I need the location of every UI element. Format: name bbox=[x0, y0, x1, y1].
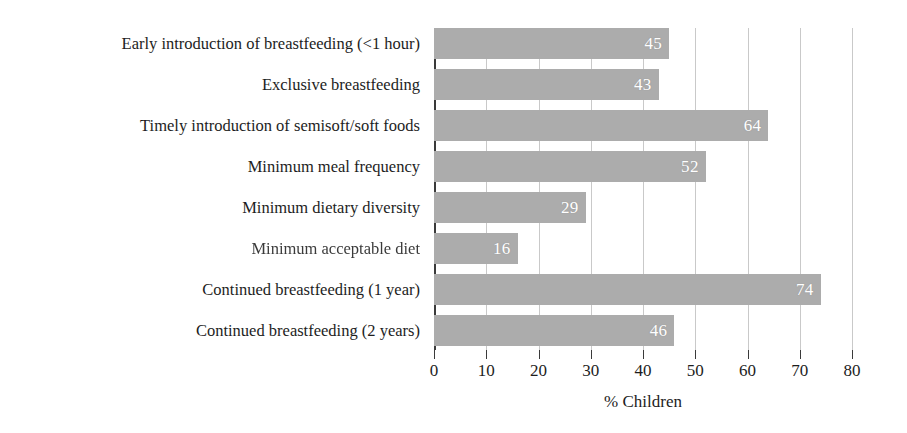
bar-value-label: 16 bbox=[493, 239, 511, 258]
tickmark-0 bbox=[434, 350, 435, 359]
x-tick-label-80: 80 bbox=[832, 360, 872, 382]
category-label: Continued breastfeeding (1 year) bbox=[0, 274, 426, 305]
bar-value-label: 52 bbox=[681, 157, 699, 176]
tickmark-80 bbox=[852, 350, 853, 359]
bar-chart-figure: Early introduction of breastfeeding (<1 … bbox=[0, 0, 907, 433]
bar: 43 bbox=[434, 69, 659, 100]
gridline-80 bbox=[852, 28, 853, 350]
x-tick-label-20: 20 bbox=[519, 360, 559, 382]
bar: 29 bbox=[434, 192, 586, 223]
bar-row: 74 bbox=[434, 274, 852, 305]
x-tick-label-0: 0 bbox=[414, 360, 454, 382]
category-label: Minimum meal frequency bbox=[0, 151, 426, 182]
tickmark-60 bbox=[748, 350, 749, 359]
bar-value-label: 45 bbox=[645, 34, 663, 53]
bar: 52 bbox=[434, 151, 706, 182]
x-axis-tickmarks bbox=[434, 350, 852, 359]
x-axis-tick-labels: 01020304050607080 bbox=[434, 360, 852, 384]
category-label: Exclusive breastfeeding bbox=[0, 69, 426, 100]
category-label: Continued breastfeeding (2 years) bbox=[0, 315, 426, 346]
x-tick-label-10: 10 bbox=[466, 360, 506, 382]
bar: 46 bbox=[434, 315, 674, 346]
bar-value-label: 64 bbox=[744, 116, 762, 135]
x-tick-label-40: 40 bbox=[623, 360, 663, 382]
tickmark-40 bbox=[643, 350, 644, 359]
category-label: Timely introduction of semisoft/soft foo… bbox=[0, 110, 426, 141]
bar: 64 bbox=[434, 110, 768, 141]
category-axis-labels: Early introduction of breastfeeding (<1 … bbox=[0, 28, 430, 350]
bar-row: 43 bbox=[434, 69, 852, 100]
bar-value-label: 43 bbox=[634, 75, 652, 94]
bar-row: 46 bbox=[434, 315, 852, 346]
bar-row: 16 bbox=[434, 233, 852, 264]
bar-row: 45 bbox=[434, 28, 852, 59]
bar-value-label: 29 bbox=[561, 198, 579, 217]
tickmark-50 bbox=[695, 350, 696, 359]
x-axis-title: % Children bbox=[434, 392, 852, 412]
category-label: Minimum dietary diversity bbox=[0, 192, 426, 223]
bar: 74 bbox=[434, 274, 821, 305]
bar-value-label: 74 bbox=[796, 280, 814, 299]
tickmark-70 bbox=[800, 350, 801, 359]
category-label: Minimum acceptable diet bbox=[0, 233, 426, 264]
bar: 45 bbox=[434, 28, 669, 59]
bar-row: 64 bbox=[434, 110, 852, 141]
tickmark-20 bbox=[539, 350, 540, 359]
plot-area: 4543645229167446 bbox=[434, 28, 852, 350]
x-tick-label-50: 50 bbox=[675, 360, 715, 382]
tickmark-10 bbox=[486, 350, 487, 359]
x-tick-label-60: 60 bbox=[728, 360, 768, 382]
bar-row: 52 bbox=[434, 151, 852, 182]
bar-value-label: 46 bbox=[650, 321, 668, 340]
category-label: Early introduction of breastfeeding (<1 … bbox=[0, 28, 426, 59]
x-tick-label-70: 70 bbox=[780, 360, 820, 382]
bar-row: 29 bbox=[434, 192, 852, 223]
bar: 16 bbox=[434, 233, 518, 264]
x-tick-label-30: 30 bbox=[571, 360, 611, 382]
tickmark-30 bbox=[591, 350, 592, 359]
